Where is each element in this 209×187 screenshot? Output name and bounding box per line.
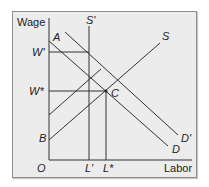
- y-axis-label: Wage: [17, 16, 45, 28]
- point-c-marker: [105, 90, 108, 93]
- demand-label: D: [172, 143, 180, 155]
- l-prime-label: L': [85, 162, 94, 174]
- supply-upper-line: [49, 69, 101, 115]
- l-star-label: L*: [103, 162, 114, 174]
- x-axis-label: Labor: [164, 162, 192, 174]
- b-label: B: [39, 132, 46, 144]
- demand-curve: [49, 41, 168, 146]
- labor-market-diagram: Wage Labor O W' W* B L' L* A C S' S D' D: [0, 0, 209, 187]
- point-c-label: C: [111, 87, 119, 99]
- w-prime-label: W': [32, 46, 45, 58]
- w-star-label: W*: [29, 85, 44, 97]
- supply-label: S: [162, 30, 170, 42]
- supply-vertical-label: S': [86, 14, 96, 26]
- demand-shifted-curve: [65, 32, 178, 135]
- origin-label: O: [37, 162, 46, 174]
- point-a-label: A: [52, 31, 60, 43]
- demand-shifted-label: D': [181, 132, 192, 144]
